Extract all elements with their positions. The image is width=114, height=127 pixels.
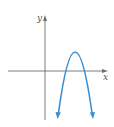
graph-canvas bbox=[0, 0, 114, 127]
y-axis-arrow-icon bbox=[43, 15, 47, 21]
y-axis-label: y bbox=[37, 14, 42, 23]
parabola-graph: y x bbox=[0, 0, 114, 127]
x-axis bbox=[8, 69, 108, 73]
y-axis bbox=[43, 15, 47, 120]
left-arrow-down-icon bbox=[56, 112, 61, 119]
x-axis-label: x bbox=[103, 73, 108, 82]
parabola-curve bbox=[56, 52, 96, 119]
right-arrow-down-icon bbox=[90, 112, 95, 119]
